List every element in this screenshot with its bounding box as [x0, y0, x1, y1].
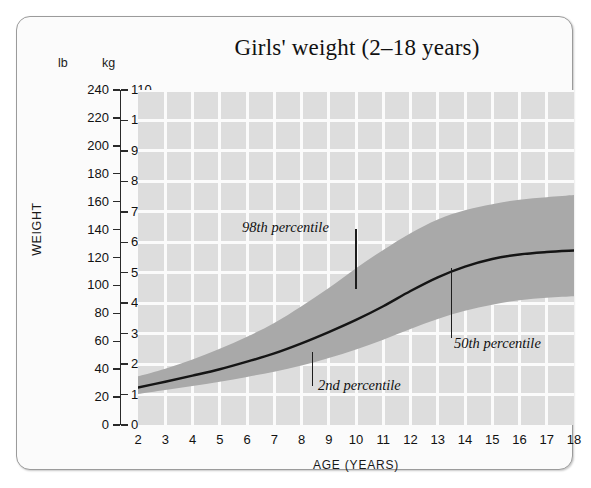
y-axis-unit-kg: kg: [102, 56, 115, 70]
x-tick-label: 18: [557, 432, 591, 447]
y-tick-lb: [113, 145, 120, 146]
percentile-band-2nd-to-98th: [138, 195, 574, 394]
y-tick-kg: [121, 181, 128, 182]
y-tick-label-lb: 100: [57, 277, 109, 292]
y-tick-label-lb: 0: [57, 417, 109, 432]
y-tick-label-lb: 200: [57, 138, 109, 153]
y-tick-lb: [113, 229, 120, 230]
y-axis-unit-lb: lb: [58, 56, 68, 70]
y-tick-label-lb: 140: [57, 222, 109, 237]
y-tick-lb: [113, 117, 120, 118]
y-tick-lb: [113, 201, 120, 202]
y-tick-label-lb: 120: [57, 250, 109, 265]
y-tick-label-lb: 20: [57, 389, 109, 404]
y-tick-kg: [121, 333, 128, 334]
chart-card: Girls' weight (2–18 years) lb kg WEIGHT …: [16, 16, 573, 470]
y-axis-title: WEIGHT: [30, 194, 44, 264]
y-axis-spine: [120, 90, 121, 425]
leader-line-50th: [451, 268, 453, 338]
annotation-2nd-percentile: 2nd percentile: [318, 377, 401, 394]
y-tick-lb: [113, 257, 120, 258]
y-tick-kg: [121, 211, 128, 212]
y-tick-kg: [121, 272, 128, 273]
y-tick-lb: [113, 368, 120, 369]
y-tick-label-lb: 220: [57, 110, 109, 125]
y-tick-kg: [121, 150, 128, 151]
y-tick-label-lb: 60: [57, 333, 109, 348]
y-tick-lb: [113, 173, 120, 174]
plot-area: 98th percentile 50th percentile 2nd perc…: [138, 90, 574, 425]
y-tick-lb: [113, 341, 120, 342]
y-tick-kg: [121, 242, 128, 243]
y-tick-label-lb: 240: [57, 82, 109, 97]
annotation-98th-percentile: 98th percentile: [242, 219, 329, 236]
y-tick-lb: [113, 313, 120, 314]
annotation-50th-percentile: 50th percentile: [454, 335, 541, 352]
x-axis-title: AGE (YEARS): [138, 458, 574, 472]
y-tick-kg: [121, 120, 128, 121]
y-tick-label-lb: 180: [57, 166, 109, 181]
y-tick-label-lb: 160: [57, 194, 109, 209]
leader-line-98th: [355, 229, 357, 289]
chart-title: Girls' weight (2–18 years): [137, 35, 577, 61]
y-tick-lb: [113, 424, 120, 425]
chart-screenshot: Girls' weight (2–18 years) lb kg WEIGHT …: [0, 0, 591, 488]
y-tick-lb: [113, 396, 120, 397]
y-tick-label-lb: 80: [57, 305, 109, 320]
y-tick-lb: [113, 285, 120, 286]
leader-line-2nd: [312, 352, 314, 386]
y-tick-kg: [121, 89, 128, 90]
y-tick-kg: [121, 394, 128, 395]
y-tick-label-lb: 40: [57, 361, 109, 376]
y-tick-kg: [121, 363, 128, 364]
y-tick-kg: [121, 302, 128, 303]
y-tick-lb: [113, 89, 120, 90]
y-tick-kg: [121, 424, 128, 425]
